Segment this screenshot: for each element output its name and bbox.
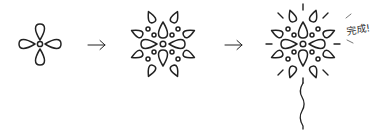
emphasis-mark-top (346, 14, 351, 18)
arrow-1-icon (88, 41, 105, 50)
firework-diagram (0, 0, 386, 130)
arrow-2-icon (225, 41, 242, 50)
stage-3-flower (266, 4, 340, 83)
stage-1-flower (19, 24, 61, 65)
firework-trail (300, 83, 304, 129)
stage-2-flower (130, 10, 196, 78)
emphasis-mark-bottom (347, 40, 353, 43)
center-circle (37, 41, 42, 46)
burst-rays (266, 4, 340, 83)
